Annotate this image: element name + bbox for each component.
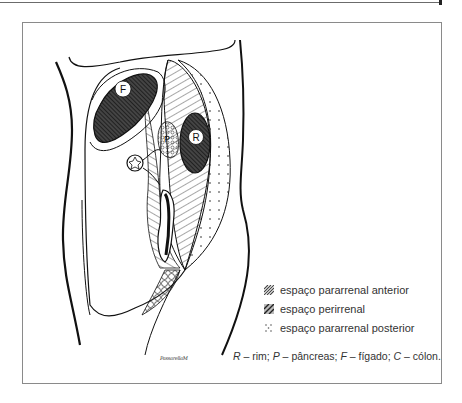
legend-item-anterior-pararenal: espaço pararrenal anterior <box>264 280 415 299</box>
legend-label: espaço pararrenal posterior <box>280 322 415 334</box>
anterior-hatch-swatch-icon <box>264 285 274 295</box>
caption-text-f: – fígado; <box>347 350 394 362</box>
dots-swatch-icon <box>264 323 274 333</box>
legend-label: espaço pararrenal anterior <box>280 284 409 296</box>
caption-key-r: R <box>233 350 241 362</box>
caption-text-c: – cólon. <box>401 350 441 362</box>
label-liver: F <box>120 84 126 95</box>
caption-key-p: P <box>273 350 280 362</box>
caption-key-c: C <box>394 350 402 362</box>
label-pancreas: P <box>164 134 170 144</box>
legend-item-posterior-pararenal: espaço pararrenal posterior <box>264 318 415 337</box>
legend-item-perirenal: espaço perirrenal <box>264 299 415 318</box>
legend-label: espaço perirrenal <box>280 303 365 315</box>
caption-text-r: – rim; <box>241 350 273 362</box>
artist-signature: PassarellaM <box>160 355 188 361</box>
label-kidney: R <box>192 132 199 143</box>
anatomy-illustration: F R P <box>0 0 462 403</box>
caption-text-p: – pâncreas; <box>280 350 341 362</box>
perirenal-hatch-swatch-icon <box>264 304 274 314</box>
figure-caption: R – rim; P – pâncreas; F – fígado; C – c… <box>233 350 441 362</box>
body-wall-left <box>56 62 80 345</box>
legend: espaço pararrenal anterior espaço perirr… <box>264 280 415 337</box>
